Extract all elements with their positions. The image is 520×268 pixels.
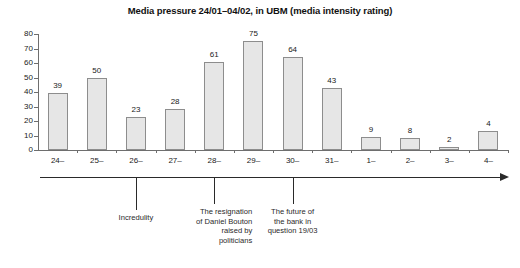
annotation-line: The future of — [257, 207, 329, 217]
annotation-line: raised by — [174, 226, 252, 236]
x-tick-mark — [77, 150, 78, 153]
x-tick-mark — [116, 150, 117, 153]
y-tick-label: 20 — [24, 115, 33, 126]
x-tick-mark — [391, 150, 392, 153]
x-tick-mark — [234, 150, 235, 153]
bar-value-label: 50 — [92, 66, 101, 76]
x-tick-label: 4– — [484, 155, 493, 166]
x-tick-label: 30– — [286, 155, 299, 166]
y-tick-label: 80 — [24, 28, 33, 39]
bar-value-label: 39 — [53, 81, 62, 91]
x-tick-mark — [156, 150, 157, 153]
x-tick-mark — [469, 150, 470, 153]
bar-value-label: 4 — [486, 119, 490, 129]
bar-slot: 23 — [116, 34, 155, 150]
timeline-connector — [214, 177, 215, 204]
bar-slot: 50 — [77, 34, 116, 150]
x-tick-label: 31– — [325, 155, 338, 166]
x-tick-mark — [430, 150, 431, 153]
bar-slot: 43 — [312, 34, 351, 150]
annotation-line: the bank in — [257, 217, 329, 227]
bar — [322, 88, 342, 150]
bar — [439, 147, 459, 150]
x-tick-label: 28– — [208, 155, 221, 166]
bar-value-label: 9 — [369, 125, 373, 135]
x-tick-label: 2– — [406, 155, 415, 166]
annotation-line: politicians — [174, 236, 252, 246]
y-tick-label: 30 — [24, 101, 33, 112]
timeline-axis — [40, 177, 504, 178]
x-tick-label: 27– — [168, 155, 181, 166]
chart-title: Media pressure 24/01–04/02, in UBM (medi… — [0, 5, 520, 16]
chart-plot-area: 01020304050607080 39502328617564439824 2… — [38, 34, 508, 150]
annotation-line: question 19/03 — [257, 226, 329, 236]
bar-value-label: 64 — [288, 45, 297, 55]
bar — [283, 57, 303, 150]
bar — [126, 117, 146, 150]
bar — [478, 131, 498, 150]
timeline-annotation: The resignationof Daniel Boutonraised by… — [174, 207, 252, 245]
bar-value-label: 43 — [327, 76, 336, 86]
bar-slot: 8 — [391, 34, 430, 150]
bar-slot: 4 — [469, 34, 508, 150]
annotation-line: The resignation — [174, 207, 252, 217]
bar-slot: 75 — [234, 34, 273, 150]
annotation-line: Incredulity — [101, 213, 171, 223]
x-tick-label: 29– — [247, 155, 260, 166]
x-tick-mark — [508, 150, 509, 153]
x-tick-mark — [195, 150, 196, 153]
bar-slot: 61 — [195, 34, 234, 150]
y-tick-label: 50 — [24, 72, 33, 83]
timeline-arrow-icon — [500, 173, 509, 181]
bar — [165, 109, 185, 150]
bar — [48, 93, 68, 150]
y-tick-mark — [34, 150, 38, 151]
y-tick-label: 10 — [24, 130, 33, 141]
bar-value-label: 61 — [210, 50, 219, 60]
x-tick-label: 3– — [445, 155, 454, 166]
x-tick-mark — [312, 150, 313, 153]
bar-slot: 9 — [351, 34, 390, 150]
bar — [204, 62, 224, 150]
timeline-connector — [293, 177, 294, 204]
bar-slot: 28 — [156, 34, 195, 150]
bar-slot: 39 — [38, 34, 77, 150]
bar-value-label: 75 — [249, 29, 258, 39]
timeline-annotation: The future ofthe bank inquestion 19/03 — [257, 207, 329, 236]
y-tick-label: 0 — [29, 144, 33, 155]
y-tick-label: 40 — [24, 86, 33, 97]
y-tick-label: 70 — [24, 43, 33, 54]
x-tick-label: 24– — [51, 155, 64, 166]
x-tick-label: 26– — [129, 155, 142, 166]
bar — [361, 137, 381, 150]
bar-value-label: 28 — [171, 97, 180, 107]
x-tick-mark — [351, 150, 352, 153]
x-tick-label: 1– — [366, 155, 375, 166]
bar-slot: 64 — [273, 34, 312, 150]
bar-value-label: 2 — [447, 135, 451, 145]
timeline-annotation: Incredulity — [101, 213, 171, 223]
timeline-connector — [136, 177, 137, 210]
x-tick-mark — [273, 150, 274, 153]
annotation-line: of Daniel Bouton — [174, 217, 252, 227]
bar — [400, 138, 420, 150]
y-tick-label: 60 — [24, 57, 33, 68]
bar-value-label: 23 — [131, 105, 140, 115]
bar — [243, 41, 263, 150]
x-tick-label: 25– — [90, 155, 103, 166]
bar — [87, 78, 107, 151]
bar-value-label: 8 — [408, 126, 412, 136]
bar-slot: 2 — [430, 34, 469, 150]
